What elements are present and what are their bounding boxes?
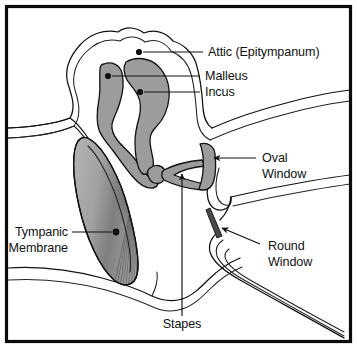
label-oval-window-line2: Window: [262, 167, 307, 181]
label-stapes: Stapes: [163, 317, 202, 331]
tympanic-membrane-marker-dot: [113, 229, 120, 236]
diagram-canvas: Attic (Epitympanum) Malleus Incus Oval W…: [0, 0, 357, 348]
hypotympanum-floor: [182, 258, 242, 309]
incus-marker-dot: [137, 89, 143, 95]
label-incus: Incus: [205, 85, 235, 99]
label-round-window-line2: Window: [268, 255, 313, 269]
round-window-membrane: [206, 208, 222, 238]
label-malleus: Malleus: [205, 69, 248, 83]
attic-marker-dot: [136, 49, 142, 55]
label-oval-window-line1: Oval: [262, 151, 288, 165]
tympanic-annulus-recess: [152, 272, 157, 296]
leader-attic: [136, 49, 203, 55]
anatomy-illustration: [8, 28, 350, 338]
label-round-window-line1: Round: [268, 239, 305, 253]
middle-ear-diagram: Attic (Epitympanum) Malleus Incus Oval W…: [0, 0, 357, 348]
ear-canal-lower-wall: [8, 267, 182, 311]
label-attic: Attic (Epitympanum): [208, 45, 319, 59]
round-window-arrow: [222, 228, 260, 244]
malleus-marker-dot: [105, 73, 111, 79]
label-tympanic-membrane-line1: Tympanic: [15, 225, 68, 239]
label-tympanic-membrane-line2: Membrane: [9, 241, 68, 255]
